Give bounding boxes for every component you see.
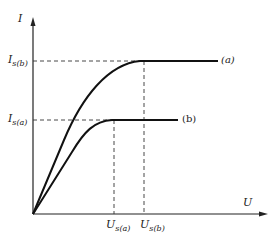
curve-a (33, 61, 218, 214)
x-axis-label: U (243, 196, 252, 209)
tick-usb-main: U (140, 218, 149, 231)
x-axis-arrow-icon (259, 212, 268, 217)
tick-isa-sub: s(a) (12, 118, 27, 127)
tick-usa-sub: s(a) (115, 224, 130, 233)
tick-usb-sub: s(b) (149, 224, 164, 233)
tick-usa-main: U (106, 218, 115, 231)
tick-isb: Is(b) (8, 53, 28, 66)
curve-b-label: (b) (182, 113, 196, 124)
curve-a-label: (a) (221, 54, 235, 65)
curve-b (33, 120, 178, 214)
tick-usa: Us(a) (106, 218, 130, 231)
tick-isb-sub: s(b) (12, 59, 27, 68)
y-axis-label: I (18, 12, 22, 25)
diagram-canvas (0, 0, 276, 245)
tick-isa: Is(a) (8, 112, 27, 125)
tick-usb: Us(b) (140, 218, 165, 231)
y-axis-arrow-icon (31, 17, 36, 26)
